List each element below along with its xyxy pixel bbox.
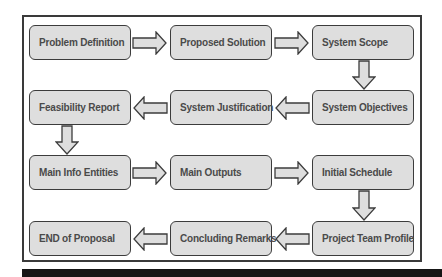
arrow-right-icon [274, 161, 310, 185]
node-end-of-proposal: END of Proposal [29, 221, 131, 256]
arrow-down-icon [352, 190, 376, 221]
node-label: Concluding Remarks [180, 233, 276, 244]
node-proposed-solution: Proposed Solution [170, 25, 272, 60]
node-label: Main Outputs [180, 167, 241, 178]
arrow-right-icon [132, 161, 168, 185]
node-concluding-remarks: Concluding Remarks [170, 221, 272, 256]
node-label: Project Team Profile [322, 233, 414, 244]
node-label: Initial Schedule [322, 167, 392, 178]
node-system-scope: System Scope [312, 25, 414, 60]
node-label: System Objectives [322, 102, 408, 113]
node-label: Problem Definition [39, 37, 124, 48]
bottom-rule [22, 269, 442, 277]
arrow-left-icon [274, 227, 310, 251]
node-main-outputs: Main Outputs [170, 155, 272, 190]
node-problem-definition: Problem Definition [29, 25, 131, 60]
node-label: System Justification [180, 102, 273, 113]
arrow-right-icon [132, 31, 168, 55]
arrow-down-icon [352, 60, 376, 90]
arrow-right-icon [274, 31, 310, 55]
node-system-justification: System Justification [170, 90, 272, 125]
arrow-left-icon [132, 227, 168, 251]
arrow-left-icon [274, 96, 310, 120]
node-initial-schedule: Initial Schedule [312, 155, 414, 190]
node-project-team-profile: Project Team Profile [312, 221, 414, 256]
node-feasibility-report: Feasibility Report [29, 90, 131, 125]
node-main-info-entities: Main Info Entities [29, 155, 131, 190]
arrow-down-icon [55, 125, 79, 155]
node-label: Proposed Solution [180, 37, 266, 48]
node-label: Feasibility Report [39, 102, 119, 113]
node-label: END of Proposal [39, 233, 115, 244]
node-label: Main Info Entities [39, 167, 118, 178]
node-label: System Scope [322, 37, 388, 48]
arrow-left-icon [132, 96, 168, 120]
node-system-objectives: System Objectives [312, 90, 414, 125]
